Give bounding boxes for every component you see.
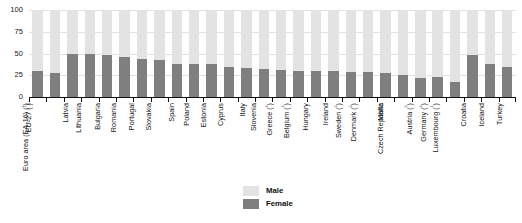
bar-stack[interactable] <box>450 10 460 97</box>
bar-slot <box>81 10 98 97</box>
bar-stack[interactable] <box>50 10 60 97</box>
bar-slot <box>272 10 289 97</box>
bar-segment-female <box>415 78 425 97</box>
bar-segment-female <box>172 64 182 97</box>
category-label: Germany (²) <box>418 103 427 142</box>
bar-segment-female <box>380 73 390 97</box>
bar-stack[interactable] <box>224 10 234 97</box>
bar-segment-female <box>32 71 42 97</box>
bar-slot <box>429 10 446 97</box>
bar-stack[interactable] <box>172 10 182 97</box>
tick-mark <box>515 98 516 102</box>
bar-segment-female <box>154 60 164 97</box>
bar-stack[interactable] <box>259 10 269 97</box>
bar-stack[interactable] <box>119 10 129 97</box>
bar-segment-female <box>311 71 321 97</box>
bar-slot <box>481 10 498 97</box>
bar-stack[interactable] <box>415 10 425 97</box>
tick-mark <box>99 98 100 102</box>
tick-mark <box>81 98 82 102</box>
bar-slot <box>29 10 46 97</box>
bar-stack[interactable] <box>67 10 77 97</box>
bar-stack[interactable] <box>311 10 321 97</box>
bar-slot <box>186 10 203 97</box>
bar-stack[interactable] <box>32 10 42 97</box>
tick-mark <box>203 98 204 102</box>
bar-slot <box>359 10 376 97</box>
legend-item[interactable]: Female <box>243 199 293 209</box>
legend-label-male: Male <box>266 187 283 195</box>
bar-segment-female <box>432 77 442 97</box>
category-label: Austria (²) <box>405 103 414 134</box>
tick-mark <box>272 98 273 102</box>
plot-wrapper: 0255075100 EU-27 (¹)Euro area (EA-16) (¹… <box>0 0 522 180</box>
bar-slot <box>412 10 429 97</box>
bar-stack[interactable] <box>346 10 356 97</box>
bar-segment-female <box>485 64 495 97</box>
bar-slot <box>394 10 411 97</box>
bar-slot <box>116 10 133 97</box>
bar-slot <box>377 10 394 97</box>
bar-stack[interactable] <box>328 10 338 97</box>
tick-mark <box>290 98 291 102</box>
tick-mark <box>186 98 187 102</box>
bar-stack[interactable] <box>241 10 251 97</box>
tick-cell <box>272 98 289 102</box>
bar-stack[interactable] <box>363 10 373 97</box>
bar-slot <box>64 10 81 97</box>
category-label: Sweden (²) <box>333 103 342 138</box>
tick-mark <box>151 98 152 102</box>
stacked-bar-chart: 0255075100 EU-27 (¹)Euro area (EA-16) (¹… <box>0 0 522 223</box>
category-label: Croatia <box>461 103 468 127</box>
bar-stack[interactable] <box>380 10 390 97</box>
bar-stack[interactable] <box>467 10 477 97</box>
y-tick-label: 100 <box>10 6 23 14</box>
tick-cell <box>499 98 516 102</box>
bar-segment-female <box>398 75 408 97</box>
legend-item[interactable]: Male <box>243 186 293 196</box>
bar-slot <box>325 10 342 97</box>
tick-cell <box>203 98 220 102</box>
tick-mark <box>46 98 47 102</box>
tick-cell <box>46 98 63 102</box>
bar-slot <box>46 10 63 97</box>
tick-cell <box>394 98 411 102</box>
category-label-cell: Slovakia <box>151 103 168 181</box>
category-label: Euro area (EA-16) (¹) <box>21 103 30 171</box>
bar-stack[interactable] <box>206 10 216 97</box>
tick-cell <box>377 98 394 102</box>
bar-slot <box>238 10 255 97</box>
tick-cell <box>99 98 116 102</box>
bar-stack[interactable] <box>398 10 408 97</box>
category-label: Ireland <box>322 103 329 125</box>
bar-stack[interactable] <box>154 10 164 97</box>
bar-stack[interactable] <box>189 10 199 97</box>
category-label: Luxembourg (²) <box>430 103 439 152</box>
tick-cell <box>429 98 446 102</box>
bar-slot <box>255 10 272 97</box>
tick-cell <box>238 98 255 102</box>
bar-stack[interactable] <box>485 10 495 97</box>
plot-area <box>29 10 516 97</box>
bar-stack[interactable] <box>276 10 286 97</box>
y-tick-label: 25 <box>14 72 23 80</box>
tick-mark <box>133 98 134 102</box>
bar-stack[interactable] <box>85 10 95 97</box>
tick-mark <box>359 98 360 102</box>
bar-segment-female <box>241 68 251 97</box>
bar-slot <box>342 10 359 97</box>
category-label: Slovenia <box>250 103 257 131</box>
tick-mark <box>429 98 430 102</box>
category-label: Portugal <box>128 103 135 130</box>
tick-cell <box>325 98 342 102</box>
tick-cell <box>446 98 463 102</box>
y-axis: 0255075100 <box>0 0 26 98</box>
bar-stack[interactable] <box>293 10 303 97</box>
bar-stack[interactable] <box>137 10 147 97</box>
tick-cell <box>359 98 376 102</box>
bar-stack[interactable] <box>102 10 112 97</box>
bar-stack[interactable] <box>502 10 512 97</box>
bar-segment-female <box>467 55 477 97</box>
bar-stack[interactable] <box>432 10 442 97</box>
bar-segment-female <box>328 71 338 97</box>
